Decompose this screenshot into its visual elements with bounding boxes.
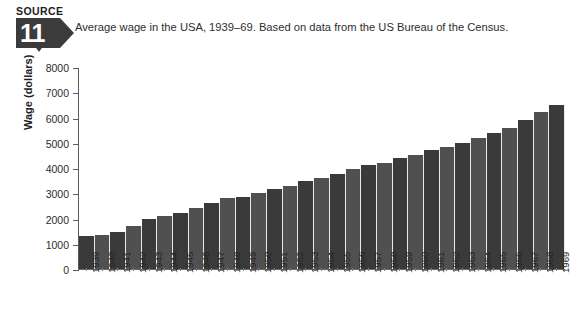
x-tick xyxy=(431,268,432,271)
x-tick-label: 1963 xyxy=(466,252,477,273)
bar xyxy=(549,105,565,269)
x-tick xyxy=(86,268,87,271)
x-tick-label: 1965 xyxy=(497,252,508,273)
bar xyxy=(455,143,471,269)
x-tick-label: 1941 xyxy=(121,252,132,273)
x-tick-label: 1966 xyxy=(513,252,524,273)
y-tick-label: 2000 xyxy=(25,215,69,225)
x-tick xyxy=(196,268,197,271)
x-tick xyxy=(321,268,322,271)
x-tick-label: 1946 xyxy=(200,252,211,273)
x-tick xyxy=(258,268,259,271)
x-tick-label: 1940 xyxy=(106,252,117,273)
x-tick xyxy=(352,268,353,271)
x-tick xyxy=(149,268,150,271)
x-tick xyxy=(274,268,275,271)
x-tick xyxy=(415,268,416,271)
y-tick-label: 6000 xyxy=(25,114,69,124)
x-tick xyxy=(509,268,510,271)
x-tick xyxy=(493,268,494,271)
x-tick xyxy=(227,268,228,271)
x-tick xyxy=(384,268,385,271)
y-tick-label: 0 xyxy=(25,265,69,275)
x-tick-label: 1951 xyxy=(278,252,289,273)
x-tick xyxy=(446,268,447,271)
x-tick-label: 1954 xyxy=(325,252,336,273)
x-tick xyxy=(117,268,118,271)
bar xyxy=(487,133,503,269)
x-tick-label: 1956 xyxy=(356,252,367,273)
bar xyxy=(440,147,456,269)
x-tick-label: 1949 xyxy=(247,252,258,273)
x-axis-labels: 1939194019411942194319441945194619471948… xyxy=(78,271,565,321)
x-tick-label: 1964 xyxy=(482,252,493,273)
x-tick-label: 1950 xyxy=(262,252,273,273)
source-label: SOURCE xyxy=(16,6,82,17)
x-tick-label: 1952 xyxy=(294,252,305,273)
y-tick-label: 5000 xyxy=(25,139,69,149)
x-tick-label: 1969 xyxy=(560,252,571,273)
x-tick xyxy=(305,268,306,271)
chart-page: SOURCE 11 Average wage in the USA, 1939–… xyxy=(0,0,583,325)
x-tick-label: 1958 xyxy=(388,252,399,273)
x-tick xyxy=(133,268,134,271)
chart-title: Average wage in the USA, 1939–69. Based … xyxy=(75,20,575,34)
x-tick-label: 1968 xyxy=(544,252,555,273)
x-tick-label: 1942 xyxy=(137,252,148,273)
x-tick-label: 1945 xyxy=(184,252,195,273)
y-tick-label: 8000 xyxy=(25,63,69,73)
x-tick xyxy=(462,268,463,271)
x-tick xyxy=(525,268,526,271)
source-flag-tail-icon xyxy=(32,42,46,52)
source-badge: SOURCE 11 xyxy=(16,6,82,48)
x-tick-label: 1957 xyxy=(372,252,383,273)
x-tick xyxy=(243,268,244,271)
x-tick-label: 1947 xyxy=(215,252,226,273)
x-tick xyxy=(180,268,181,271)
bar xyxy=(518,120,534,269)
x-tick xyxy=(478,268,479,271)
bar xyxy=(471,138,487,269)
x-tick xyxy=(211,268,212,271)
x-tick xyxy=(399,268,400,271)
x-tick-label: 1967 xyxy=(529,252,540,273)
x-tick xyxy=(290,268,291,271)
y-tick-label: 3000 xyxy=(25,189,69,199)
x-tick-label: 1955 xyxy=(341,252,352,273)
x-tick xyxy=(164,268,165,271)
bar xyxy=(502,128,518,269)
x-tick xyxy=(556,268,557,271)
y-tick-label: 7000 xyxy=(25,88,69,98)
x-tick-label: 1962 xyxy=(450,252,461,273)
x-tick xyxy=(540,268,541,271)
x-tick-label: 1959 xyxy=(403,252,414,273)
x-tick xyxy=(368,268,369,271)
plot-area: 010002000300040005000600070008000 xyxy=(78,66,565,270)
y-tick-label: 1000 xyxy=(25,240,69,250)
x-tick xyxy=(102,268,103,271)
x-tick-label: 1944 xyxy=(168,252,179,273)
x-tick-label: 1953 xyxy=(309,252,320,273)
x-tick-label: 1960 xyxy=(419,252,430,273)
y-tick-label: 4000 xyxy=(25,164,69,174)
x-tick-label: 1943 xyxy=(153,252,164,273)
bar xyxy=(534,112,550,269)
x-tick-label: 1961 xyxy=(435,252,446,273)
x-tick-label: 1948 xyxy=(231,252,242,273)
bar-series xyxy=(79,67,565,269)
x-tick xyxy=(337,268,338,271)
x-tick-label: 1939 xyxy=(90,252,101,273)
